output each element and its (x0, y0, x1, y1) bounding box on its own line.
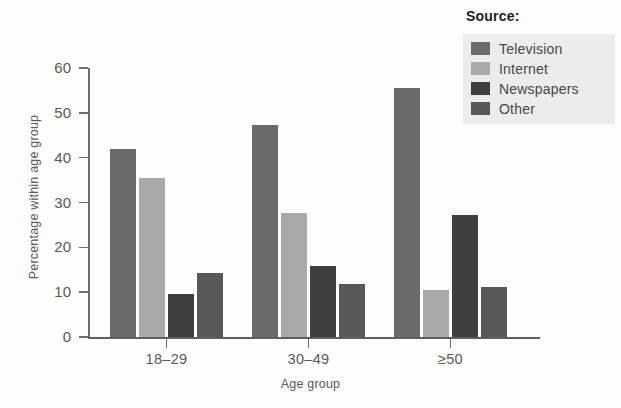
y-tick (79, 157, 88, 159)
legend-item-label: Other (499, 102, 535, 116)
y-axis-line (88, 68, 90, 339)
legend-swatch (471, 42, 490, 55)
y-tick-label: 30 (31, 195, 71, 210)
legend-item-label: Television (499, 42, 562, 56)
x-tick-label: 18–29 (107, 351, 227, 367)
legend-item-label: Internet (499, 62, 548, 76)
bar (481, 287, 507, 337)
x-axis-line (88, 337, 540, 339)
legend-swatch (471, 82, 490, 95)
bar (339, 284, 365, 337)
y-tick (79, 67, 88, 69)
x-axis-title: Age group (0, 377, 621, 391)
y-tick (79, 247, 88, 249)
legend-item: Television (471, 40, 609, 57)
bar (452, 215, 478, 337)
legend-title: Source: (466, 8, 520, 24)
bar (168, 294, 194, 337)
y-tick (79, 291, 88, 293)
legend-item: Internet (471, 60, 609, 77)
bar (139, 178, 165, 337)
y-tick (79, 112, 88, 114)
bar (281, 213, 307, 337)
y-tick-label: 60 (31, 60, 71, 75)
bar (197, 273, 223, 337)
x-tick (308, 339, 310, 348)
y-tick-label: 10 (31, 284, 71, 299)
y-tick (79, 202, 88, 204)
bar (394, 88, 420, 337)
y-tick-label: 50 (31, 105, 71, 120)
y-tick-label: 20 (31, 239, 71, 254)
x-tick (450, 339, 452, 348)
bar (110, 149, 136, 337)
legend-swatch (471, 102, 490, 115)
legend-item: Newspapers (471, 80, 609, 97)
x-tick-label: ≥50 (391, 351, 511, 367)
bar (252, 125, 278, 337)
legend: TelevisionInternetNewspapersOther (463, 34, 615, 124)
bar (310, 266, 336, 337)
x-tick (166, 339, 168, 348)
y-tick-label: 0 (31, 329, 71, 344)
legend-item-label: Newspapers (499, 82, 579, 96)
x-tick-label: 30–49 (249, 351, 369, 367)
legend-item: Other (471, 100, 609, 117)
bar-chart: Percentage within age group 010203040506… (0, 0, 621, 408)
y-tick (79, 336, 88, 338)
legend-swatch (471, 62, 490, 75)
bar (423, 290, 449, 337)
y-tick-label: 40 (31, 150, 71, 165)
